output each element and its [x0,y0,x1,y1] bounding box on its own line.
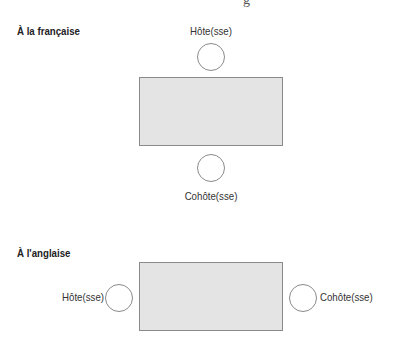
table-rectangle [139,262,283,331]
fragment-letter: g [243,0,250,8]
cropped-text-fragment: g [0,0,403,4]
table-rectangle [139,77,283,146]
host-seat-circle [197,43,225,71]
host-label: Hôte(sse) [180,25,242,37]
cohost-label: Cohôte(sse) [320,291,382,303]
cohost-seat-circle [197,154,225,182]
cohost-label: Cohôte(sse) [176,190,246,202]
host-seat-circle [105,284,133,312]
cohost-seat-circle [289,284,317,312]
host-label: Hôte(sse) [55,291,104,303]
section-title-anglaise: À l'anglaise [17,247,70,259]
section-title-francaise: À la française [17,25,80,37]
